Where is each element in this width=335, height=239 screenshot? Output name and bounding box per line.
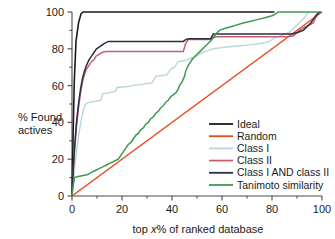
x-tick-label: 0: [69, 203, 75, 215]
legend-label-random: Random: [237, 130, 277, 142]
y-tick-label: 60: [52, 80, 64, 92]
x-tick-label: 60: [216, 203, 228, 215]
enrichment-plot: 020406080100 020406080100 % Found active…: [0, 0, 335, 239]
y-tick-label: 80: [52, 43, 64, 55]
y-axis-label-line2: actives: [18, 124, 53, 136]
x-tick-label: 40: [166, 203, 178, 215]
y-tick-label: 0: [58, 190, 64, 202]
x-tick-label: 80: [266, 203, 278, 215]
legend-label-ideal: Ideal: [237, 118, 260, 130]
legend-label-tanimoto-similarity: Tanimoto similarity: [237, 179, 324, 191]
x-axis-label: top x% of ranked database: [133, 223, 264, 235]
y-tick-label: 20: [52, 153, 64, 165]
x-tick-label: 100: [313, 203, 331, 215]
y-axis-label-line1: % Found: [18, 111, 62, 123]
x-tick-label: 20: [116, 203, 128, 215]
legend-label-class-i-and-class-ii: Class I AND class II: [237, 166, 329, 178]
chart-figure: 020406080100 020406080100 % Found active…: [0, 0, 335, 239]
legend-label-class-ii: Class II: [237, 154, 272, 166]
legend-label-class-i: Class I: [237, 142, 269, 154]
y-tick-label: 100: [46, 6, 64, 18]
